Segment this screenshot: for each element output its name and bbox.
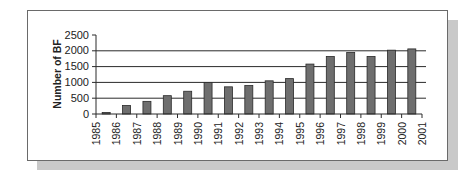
x-tick-label: 1990 [192,122,204,146]
bar-1998 [367,56,375,114]
y-tick-label: 1000 [65,76,89,88]
x-tick-label: 2000 [396,122,408,146]
axes [92,35,426,118]
x-tick-label: 1998 [355,122,367,146]
x-tick-label: 1993 [253,122,265,146]
x-tick-label: 1997 [335,122,347,146]
x-tick-label: 1988 [151,122,163,146]
bar-1999 [387,50,395,114]
y-tick-label: 2000 [65,44,89,56]
bar-1992 [245,86,253,114]
x-tick-label: 1989 [172,122,184,146]
x-tick-label: 1987 [131,122,143,146]
bar-1989 [184,91,192,114]
bar-1990 [204,82,212,114]
y-axis-title: Number of BF [51,39,63,109]
x-tick-label: 2001 [416,122,428,146]
bar-1987 [143,101,151,114]
bar-1994 [286,79,294,114]
y-tick-label: 1500 [65,60,89,72]
bar-1997 [347,52,355,114]
x-tick-labels: 1985198619871988198919901991199219931994… [90,122,428,146]
x-tick-label: 1995 [294,122,306,146]
bar-1996 [326,56,334,114]
x-tick-label: 1999 [375,122,387,146]
y-tick-label: 0 [83,108,89,120]
x-tick-label: 1985 [90,122,102,146]
bar-2000 [408,49,416,114]
x-tick-label: 1991 [212,122,224,146]
x-tick-label: 1996 [314,122,326,146]
x-tick-label: 1994 [273,122,285,146]
bar-1986 [123,105,131,114]
bar-1993 [265,81,273,114]
y-tick-label: 500 [71,92,89,104]
bar-1988 [163,96,171,114]
y-tick-label: 2500 [65,29,89,41]
y-tick-labels: 05001000150020002500 [65,29,89,120]
x-tick-label: 1986 [110,122,122,146]
bar-1991 [224,87,232,114]
bar-1995 [306,64,314,114]
x-tick-label: 1992 [233,122,245,146]
bar-chart: 05001000150020002500 1985198619871988198… [0,0,474,176]
bars [102,49,416,114]
